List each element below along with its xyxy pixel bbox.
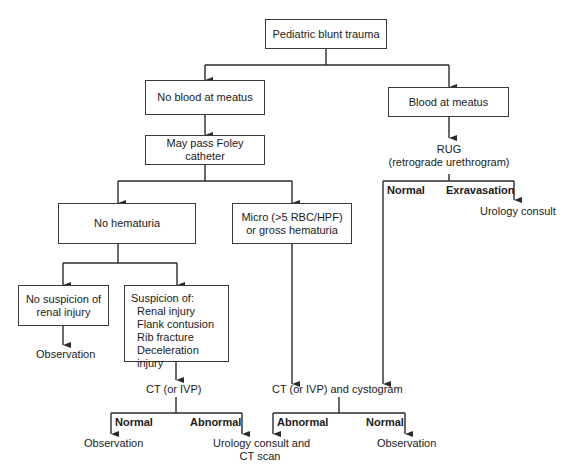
ct-abnormal-label: Abnormal [190,416,241,429]
node-suspicion: Suspicion of: Renal injury Flank contusi… [124,285,229,362]
no-suspicion-line1: No suspicion of [26,293,101,306]
no-suspicion-line2: renal injury [37,306,91,319]
node-no-blood-at-meatus: No blood at meatus [145,80,265,115]
suspicion-item: Renal injury [131,305,195,318]
micro-line1: Micro (>5 RBC/HPF) [241,211,342,224]
cysto-normal-label: Normal [366,416,404,429]
node-label: Pediatric blunt trauma [273,28,380,41]
rug-line2: (retrograde urethrogram) [388,156,510,169]
node-blood-at-meatus: Blood at meatus [388,87,509,117]
rug-extravasation-label: Exravasation [446,184,514,197]
cysto-abnormal-label: Abnormal [277,416,328,429]
rug-line1: RUG [388,143,510,156]
node-label: No hematuria [94,217,160,230]
rug-normal-label: Normal [387,184,425,197]
cysto-normal-observation: Observation [377,437,436,450]
suspicion-item: Rib fracture [131,331,194,344]
rug-urology-consult: Urology consult [480,205,556,218]
node-ct-ivp-cystogram: CT (or IVP) and cystogram [272,383,403,396]
node-no-hematuria: No hematuria [58,203,196,244]
node-rug: RUG (retrograde urethrogram) [388,143,510,169]
no-suspicion-observation: Observation [36,348,95,361]
node-no-suspicion: No suspicion of renal injury [18,285,109,326]
suspicion-item: Deceleration injury [131,344,222,370]
urology-consult-ct-scan: Urology consult and CT scan [213,437,307,463]
micro-line2: or gross hematuria [246,224,338,237]
urology-line2: CT scan [213,450,307,463]
node-label: May pass Foley catheter [146,137,264,163]
node-pediatric-blunt-trauma: Pediatric blunt trauma [265,19,387,49]
node-ct-ivp: CT (or IVP) [146,383,201,396]
urology-line1: Urology consult and [213,437,307,450]
suspicion-title: Suspicion of: [131,292,194,305]
node-may-pass-foley: May pass Foley catheter [145,135,265,165]
node-label: Blood at meatus [409,96,489,109]
ct-normal-label: Normal [115,416,153,429]
node-label: No blood at meatus [157,91,252,104]
suspicion-item: Flank contusion [131,318,214,331]
ct-normal-observation: Observation [84,437,143,450]
node-micro-gross-hematuria: Micro (>5 RBC/HPF) or gross hematuria [232,203,352,244]
